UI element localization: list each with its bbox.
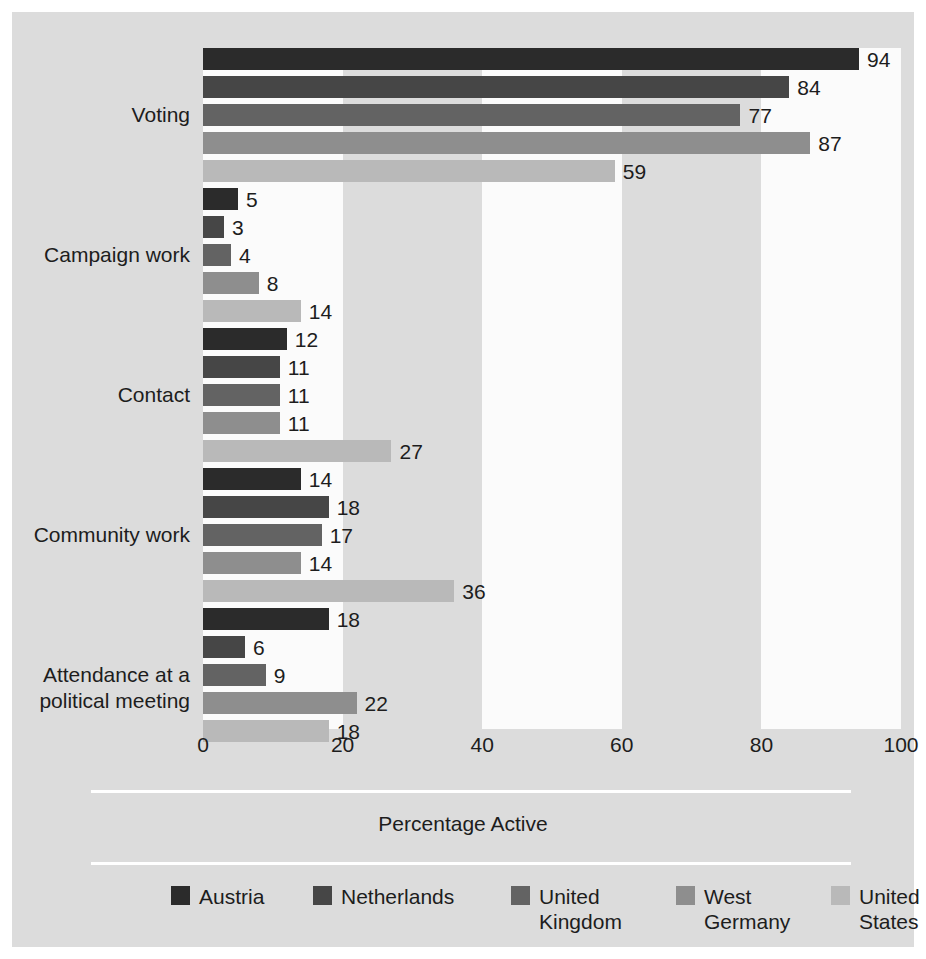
bar-row: 14 xyxy=(203,468,901,490)
bar-row: 18 xyxy=(203,608,901,630)
bar-value-label: 8 xyxy=(267,273,279,294)
bar-value-label: 14 xyxy=(309,553,332,574)
x-axis-ticks: 020406080100 xyxy=(203,734,901,764)
bar-value-label: 6 xyxy=(253,637,265,658)
x-axis-title: Percentage Active xyxy=(12,812,914,836)
legend-label: United States xyxy=(859,884,920,934)
figure-panel: VotingCampaign workContactCommunity work… xyxy=(12,12,914,947)
legend-item[interactable]: Austria xyxy=(171,884,264,909)
legend-label: United Kingdom xyxy=(539,884,622,934)
bar[interactable] xyxy=(203,300,301,322)
bar[interactable] xyxy=(203,188,238,210)
category-axis: VotingCampaign workContactCommunity work… xyxy=(12,48,190,729)
x-tick-label: 20 xyxy=(331,734,354,755)
bar[interactable] xyxy=(203,524,322,546)
bar-value-label: 22 xyxy=(365,693,388,714)
x-tick-label: 0 xyxy=(197,734,209,755)
bar-group: 1418171436 xyxy=(203,468,901,608)
bar-group: 1211111127 xyxy=(203,328,901,468)
x-tick-label: 60 xyxy=(610,734,633,755)
legend-swatch xyxy=(171,886,190,905)
legend-label: Austria xyxy=(199,884,264,909)
category-label: Attendance at a political meeting xyxy=(10,662,190,713)
bar-row: 11 xyxy=(203,384,901,406)
bar[interactable] xyxy=(203,160,615,182)
bar[interactable] xyxy=(203,384,280,406)
bar[interactable] xyxy=(203,496,329,518)
legend-item[interactable]: United States xyxy=(831,884,920,934)
divider-line-bottom xyxy=(91,862,851,865)
bar-value-label: 14 xyxy=(309,469,332,490)
plot-area: 9484778759534814121111112714181714361869… xyxy=(203,48,901,729)
bar-value-label: 11 xyxy=(288,385,310,406)
bar[interactable] xyxy=(203,356,280,378)
bar-group: 9484778759 xyxy=(203,48,901,188)
bar[interactable] xyxy=(203,328,287,350)
bar[interactable] xyxy=(203,104,740,126)
bar-value-label: 84 xyxy=(797,77,820,98)
bar-value-label: 59 xyxy=(623,161,646,182)
bar-row: 94 xyxy=(203,48,901,70)
legend: AustriaNetherlandsUnited KingdomWest Ger… xyxy=(91,884,881,942)
legend-item[interactable]: Netherlands xyxy=(313,884,454,909)
bar[interactable] xyxy=(203,440,391,462)
bar-row: 14 xyxy=(203,552,901,574)
bar[interactable] xyxy=(203,664,266,686)
bar-value-label: 3 xyxy=(232,217,244,238)
legend-item[interactable]: West Germany xyxy=(676,884,790,934)
bar-value-label: 36 xyxy=(462,581,485,602)
category-label: Voting xyxy=(10,102,190,128)
bar[interactable] xyxy=(203,468,301,490)
bar[interactable] xyxy=(203,272,259,294)
bar-row: 3 xyxy=(203,216,901,238)
category-label: Campaign work xyxy=(10,242,190,268)
bar[interactable] xyxy=(203,608,329,630)
bar-value-label: 77 xyxy=(748,105,771,126)
bar-row: 11 xyxy=(203,356,901,378)
bar[interactable] xyxy=(203,132,810,154)
bar-group: 534814 xyxy=(203,188,901,328)
bar[interactable] xyxy=(203,412,280,434)
bar-value-label: 11 xyxy=(288,413,310,434)
category-label: Community work xyxy=(10,522,190,548)
bar-value-label: 18 xyxy=(337,609,360,630)
x-tick-label: 100 xyxy=(883,734,918,755)
bar[interactable] xyxy=(203,216,224,238)
bar-row: 22 xyxy=(203,692,901,714)
bar-row: 77 xyxy=(203,104,901,126)
bar-row: 59 xyxy=(203,160,901,182)
bar-value-label: 11 xyxy=(288,357,310,378)
bar-row: 18 xyxy=(203,496,901,518)
bar-value-label: 17 xyxy=(330,525,353,546)
legend-swatch xyxy=(676,886,695,905)
bar[interactable] xyxy=(203,636,245,658)
bar-row: 5 xyxy=(203,188,901,210)
legend-label: Netherlands xyxy=(341,884,454,909)
bar-row: 11 xyxy=(203,412,901,434)
chart-figure: VotingCampaign workContactCommunity work… xyxy=(0,0,926,959)
bar[interactable] xyxy=(203,692,357,714)
bar-row: 12 xyxy=(203,328,901,350)
bar-row: 17 xyxy=(203,524,901,546)
bar-value-label: 27 xyxy=(399,441,422,462)
bar[interactable] xyxy=(203,76,789,98)
bar-value-label: 18 xyxy=(337,497,360,518)
legend-swatch xyxy=(511,886,530,905)
bar-value-label: 94 xyxy=(867,49,890,70)
divider-line-top xyxy=(91,790,851,793)
bar-value-label: 14 xyxy=(309,301,332,322)
bar[interactable] xyxy=(203,48,859,70)
bar[interactable] xyxy=(203,244,231,266)
bar-value-label: 5 xyxy=(246,189,258,210)
bar-row: 8 xyxy=(203,272,901,294)
bar[interactable] xyxy=(203,580,454,602)
x-tick-label: 40 xyxy=(471,734,494,755)
bar-value-label: 4 xyxy=(239,245,251,266)
legend-item[interactable]: United Kingdom xyxy=(511,884,622,934)
bar-group: 18692218 xyxy=(203,608,901,748)
legend-label: West Germany xyxy=(704,884,790,934)
bar-row: 4 xyxy=(203,244,901,266)
bar-row: 6 xyxy=(203,636,901,658)
bar[interactable] xyxy=(203,552,301,574)
bar-row: 84 xyxy=(203,76,901,98)
